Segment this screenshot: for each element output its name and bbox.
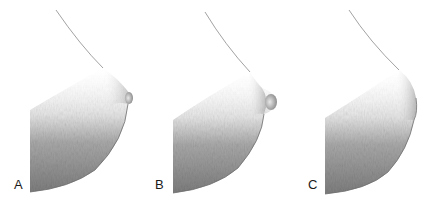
panel-a	[30, 10, 133, 192]
panel-c-skin-line	[349, 10, 399, 70]
panel-a-skin-line	[56, 10, 103, 68]
panel-b-nipple	[265, 94, 277, 110]
panel-label-b: B	[155, 178, 164, 191]
panel-b	[173, 12, 277, 193]
panel-c	[325, 10, 417, 194]
panel-label-a: A	[14, 178, 23, 191]
panel-label-c: C	[308, 178, 317, 191]
panel-a-nipple	[125, 92, 133, 104]
panel-b-skin-line	[205, 12, 250, 72]
illustration-figure: A B C	[0, 0, 427, 202]
figure-canvas	[0, 0, 427, 202]
panel-c-areola	[395, 70, 417, 128]
